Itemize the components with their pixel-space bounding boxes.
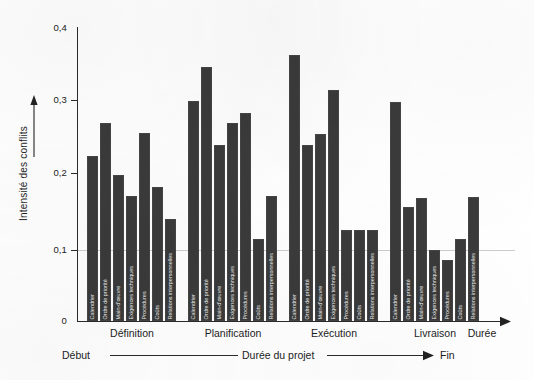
bar-category-label: Main-d'œuvre (217, 285, 222, 319)
bar: Calendrier (188, 101, 199, 321)
bar-category-label: Relations interpersonnelles (269, 253, 274, 319)
band-label-fin: Fin (440, 349, 455, 361)
bar: Main-d'œuvre (315, 134, 326, 321)
band-label-duree-du-projet: Durée du projet (242, 349, 314, 361)
bar-chart-figure: 0,4 0,3 0,2 0,1 0 Intensité des conflits… (0, 0, 534, 380)
band-arrow-icon (421, 350, 434, 361)
bar: Exigences techniques (126, 196, 137, 321)
bar: Exigences techniques (227, 123, 238, 321)
bar: Exigences techniques (328, 90, 339, 321)
bar-category-label: Main-d'œuvre (419, 285, 424, 319)
bar: Main-d'œuvre (214, 145, 225, 321)
band-rule-left (110, 355, 238, 356)
y-axis-title: Intensité des conflits (18, 94, 29, 254)
bar-category-label: Calendrier (191, 294, 196, 319)
project-duration-band: Début Durée du projet Fin (0, 349, 534, 369)
y-tick-mark-0.2 (71, 173, 78, 174)
y-tick-label-0.4: 0,4 (37, 23, 67, 33)
bar-category-label: Ordre de priorité (204, 279, 209, 319)
bar-category-label: Calendrier (90, 294, 95, 319)
bar-category-label: Exigences techniques (129, 266, 134, 319)
bar-group-execution: CalendrierOrdre de prioritéMain-d'œuvreE… (289, 27, 378, 321)
bar-group-planification: CalendrierOrdre de prioritéMain-d'œuvreE… (188, 27, 277, 321)
bar: Relations interpersonnelles (266, 196, 277, 321)
y-tick-label-0.2: 0,2 (37, 168, 67, 178)
bar-category-label: Procédures (344, 291, 349, 319)
bar-category-label: Ordre de priorité (305, 279, 310, 319)
bar: Coûts (455, 239, 466, 321)
bar-category-label: Exigences techniques (331, 266, 336, 319)
bar: Procédures (139, 133, 150, 321)
bar-category-label: Calendrier (292, 294, 297, 319)
bar: Calendrier (87, 156, 98, 321)
bar: Main-d'œuvre (113, 175, 124, 321)
bar: Ordre de priorité (302, 145, 313, 321)
bar-category-label: Calendrier (393, 294, 398, 319)
bar-category-label: Coûts (256, 305, 261, 319)
bar: Procédures (442, 260, 453, 321)
bar-category-label: Coûts (155, 305, 160, 319)
band-rule-right (327, 355, 423, 356)
bar-category-label: Relations interpersonnelles (471, 253, 476, 319)
bar: Exigences techniques (429, 250, 440, 321)
bar: Relations interpersonnelles (367, 230, 378, 321)
plot-area: CalendrierOrdre de prioritéMain-d'œuvreE… (78, 27, 515, 321)
bar: Main-d'œuvre (416, 198, 427, 321)
bar-category-label: Coûts (458, 305, 463, 319)
bar: Ordre de priorité (403, 207, 414, 321)
bar-category-label: Ordre de priorité (103, 279, 108, 319)
bar: Relations interpersonnelles (468, 197, 479, 321)
bar-category-label: Coûts (357, 305, 362, 319)
bar-group-livraison: CalendrierOrdre de prioritéMain-d'œuvreE… (390, 27, 479, 321)
y-axis-arrow-icon (29, 95, 39, 157)
bar-category-label: Procédures (445, 291, 450, 319)
x-axis-title: Durée (432, 327, 532, 339)
phase-axis-labels: Définition Planification Exécution Livra… (0, 327, 534, 343)
bar: Coûts (253, 239, 264, 321)
bar-category-label: Procédures (142, 291, 147, 319)
bar-group-definition: CalendrierOrdre de prioritéMain-d'œuvreE… (87, 27, 176, 321)
bar: Ordre de priorité (201, 67, 212, 321)
band-label-debut: Début (62, 349, 90, 361)
bar: Calendrier (289, 55, 300, 321)
bar: Procédures (341, 230, 352, 321)
y-tick-label-0.1: 0,1 (37, 245, 67, 255)
bar: Coûts (354, 230, 365, 321)
bar-category-label: Ordre de priorité (406, 279, 411, 319)
bar: Coûts (152, 187, 163, 321)
bar: Procédures (240, 113, 251, 321)
bar: Calendrier (390, 102, 401, 321)
bar-category-label: Exigences techniques (432, 266, 437, 319)
bar-category-label: Exigences techniques (230, 266, 235, 319)
y-tick-mark-0.1 (71, 250, 78, 251)
y-axis-tick-labels: 0,4 0,3 0,2 0,1 0 (34, 0, 67, 380)
bar-category-label: Main-d'œuvre (318, 285, 323, 319)
bar-category-label: Main-d'œuvre (116, 285, 121, 319)
x-axis-line (77, 321, 506, 322)
y-tick-mark-0.3 (71, 100, 78, 101)
bar: Ordre de priorité (100, 123, 111, 321)
bar-category-label: Relations interpersonnelles (168, 253, 173, 319)
bar-category-label: Procédures (243, 291, 248, 319)
bar: Relations interpersonnelles (165, 219, 176, 321)
y-tick-label-0: 0 (37, 316, 67, 326)
y-tick-label-0.3: 0,3 (37, 95, 67, 105)
bar-category-label: Relations interpersonnelles (370, 253, 375, 319)
